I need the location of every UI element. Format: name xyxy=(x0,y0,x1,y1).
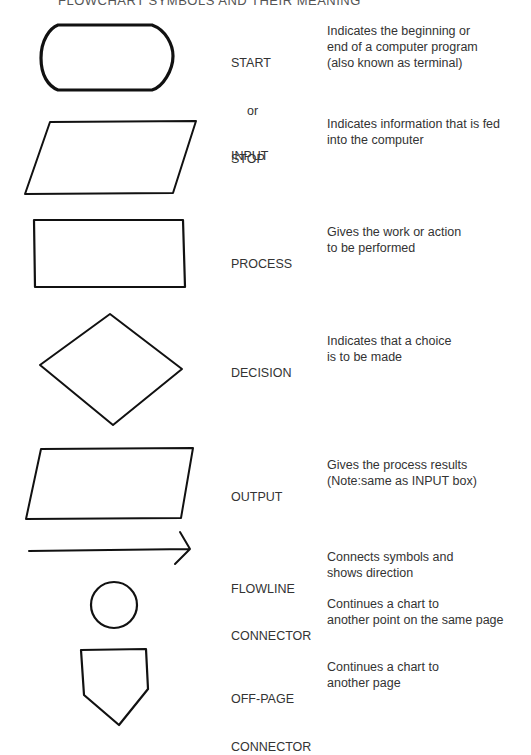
diamond-icon xyxy=(40,314,182,425)
arrow-icon xyxy=(29,532,190,564)
symbol-name-line: OUTPUT xyxy=(231,489,282,505)
symbol-desc-line: (also known as terminal) xyxy=(327,55,478,71)
symbol-name-line: START xyxy=(231,55,271,71)
symbol-desc-line: Continues a chart to xyxy=(327,596,504,612)
symbol-name-off-page-connector: OFF-PAGE CONNECTOR xyxy=(231,659,311,755)
symbol-desc-line: Indicates information that is fed xyxy=(327,116,500,132)
symbol-desc-line: Gives the work or action xyxy=(327,224,461,240)
symbol-desc-line: Indicates the beginning or xyxy=(327,23,478,39)
symbol-name-line: PROCESS xyxy=(231,256,292,272)
parallelogram-icon xyxy=(26,448,193,519)
symbol-desc-line: into the computer xyxy=(327,132,500,148)
symbol-name-connector: CONNECTOR xyxy=(231,596,311,660)
pentagon-icon xyxy=(81,649,148,725)
symbol-desc-line: (Note:same as INPUT box) xyxy=(327,473,477,489)
symbol-desc-line: Continues a chart to xyxy=(327,659,439,675)
symbol-name-line: INPUT xyxy=(231,148,269,164)
symbol-name-line: CONNECTOR xyxy=(231,739,311,755)
terminal-icon xyxy=(41,25,173,90)
symbol-name-process: PROCESS xyxy=(231,224,292,288)
symbol-desc-line: shows direction xyxy=(327,565,453,581)
symbol-desc-line: another point on the same page xyxy=(327,612,504,628)
symbol-desc-line: end of a computer program xyxy=(327,39,478,55)
symbol-desc-line: Connects symbols and xyxy=(327,549,453,565)
symbol-desc-start-stop: Indicates the beginning or end of a comp… xyxy=(327,23,478,71)
circle-icon xyxy=(91,582,137,628)
symbol-desc-line: another page xyxy=(327,675,439,691)
symbol-name-line: OFF-PAGE xyxy=(231,691,311,707)
symbol-name-output: OUTPUT xyxy=(231,457,282,521)
symbol-desc-line: Indicates that a choice xyxy=(327,333,451,349)
symbol-name-input: INPUT xyxy=(231,116,269,180)
symbol-name-decision: DECISION xyxy=(231,333,291,397)
symbol-desc-off-page-connector: Continues a chart to another page xyxy=(327,659,439,691)
parallelogram-icon xyxy=(25,121,196,194)
symbol-name-line: FLOWLINE xyxy=(231,581,295,597)
symbol-desc-line: Gives the process results xyxy=(327,457,477,473)
symbol-desc-line: is to be made xyxy=(327,349,451,365)
symbol-desc-process: Gives the work or action to be performed xyxy=(327,224,461,256)
symbol-desc-input: Indicates information that is fed into t… xyxy=(327,116,500,148)
symbol-desc-flowline: Connects symbols and shows direction xyxy=(327,549,453,581)
symbol-desc-connector: Continues a chart to another point on th… xyxy=(327,596,504,628)
rectangle-icon xyxy=(34,220,185,287)
symbol-desc-output: Gives the process results (Note:same as … xyxy=(327,457,477,489)
symbol-name-line: DECISION xyxy=(231,365,291,381)
symbol-name-line: CONNECTOR xyxy=(231,628,311,644)
symbol-desc-decision: Indicates that a choice is to be made xyxy=(327,333,451,365)
symbol-desc-line: to be performed xyxy=(327,240,461,256)
